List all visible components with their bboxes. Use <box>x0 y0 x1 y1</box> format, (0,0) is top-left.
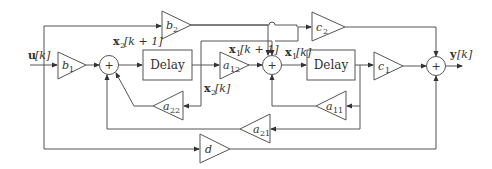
gain-a11: a 11 <box>316 91 346 120</box>
gain-a22: a 22 <box>153 91 183 120</box>
svg-text:a: a <box>223 59 230 72</box>
gain-b2: b 2 <box>162 11 191 39</box>
x2-next-label: x 2 [k + 1] <box>113 35 163 50</box>
svg-text:x: x <box>204 82 211 95</box>
svg-text:y: y <box>449 48 457 61</box>
svg-text:[k]: [k] <box>215 82 231 95</box>
delay-block-1: Delay <box>143 50 192 80</box>
svg-text:[k]: [k] <box>35 49 51 62</box>
gain-c1: c 1 <box>374 52 403 80</box>
svg-text:22: 22 <box>170 106 180 115</box>
gain-b1: b 1 <box>58 52 86 79</box>
svg-text:[k + 1]: [k + 1] <box>240 43 279 56</box>
svg-text:12: 12 <box>230 65 240 74</box>
svg-text:11: 11 <box>333 106 343 115</box>
svg-text:[k]: [k] <box>296 46 312 59</box>
gain-c2: c 2 <box>312 12 345 41</box>
svg-text:x: x <box>229 43 236 56</box>
svg-text:Delay: Delay <box>314 58 349 72</box>
output-label: y [k] <box>449 48 473 61</box>
gain-a12: a 12 <box>220 52 249 79</box>
svg-text:2: 2 <box>323 27 328 36</box>
x1-label: x 1 [k] <box>285 46 312 61</box>
gain-d: d <box>200 134 230 163</box>
svg-text:+: + <box>267 59 276 72</box>
state-space-block-diagram: + + + Delay Delay b 1 b 2 a 12 c 1 c <box>0 0 492 169</box>
svg-text:1: 1 <box>385 66 390 75</box>
x2-label: x 2 [k] <box>204 82 231 97</box>
svg-text:a: a <box>326 100 333 113</box>
svg-text:d: d <box>205 143 212 156</box>
svg-text:+: + <box>431 60 440 73</box>
svg-text:[k + 1]: [k + 1] <box>124 35 163 48</box>
svg-text:[k]: [k] <box>457 48 473 61</box>
svg-text:c: c <box>316 21 322 34</box>
svg-text:+: + <box>104 59 113 72</box>
svg-text:x: x <box>285 46 292 59</box>
svg-text:21: 21 <box>260 129 270 138</box>
svg-text:x: x <box>113 35 120 48</box>
svg-text:1: 1 <box>69 65 74 74</box>
summer-2: + <box>263 56 282 75</box>
svg-text:c: c <box>378 60 384 73</box>
svg-text:2: 2 <box>173 25 178 34</box>
svg-text:Delay: Delay <box>150 58 185 72</box>
svg-text:b: b <box>62 59 69 72</box>
x1-next-label: x 1 [k + 1] <box>229 43 279 58</box>
input-label: u [k] <box>28 49 51 62</box>
gain-a21: a 21 <box>240 114 270 143</box>
delay-block-2: Delay <box>307 50 355 80</box>
svg-text:b: b <box>166 19 173 32</box>
summer-1: + <box>100 56 119 75</box>
svg-text:a: a <box>253 123 260 136</box>
svg-text:a: a <box>163 100 170 113</box>
summer-3: + <box>427 57 446 76</box>
